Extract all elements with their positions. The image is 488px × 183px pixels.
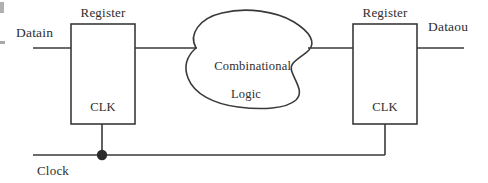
register-2-clk-label: CLK <box>353 100 417 114</box>
clock-label: Clock <box>37 164 69 179</box>
combinational-logic-label-line1: Combinational <box>214 59 291 73</box>
register-1-clk-label: CLK <box>71 100 135 114</box>
datain-label: Datain <box>16 25 53 40</box>
scan-artifact-top <box>0 2 4 13</box>
register-2-label: Register <box>353 6 417 21</box>
scan-artifact-middle <box>0 41 5 44</box>
clock-junction-dot <box>97 150 107 160</box>
diagram-canvas: Datain Dataou Clock Register CLK Registe… <box>0 0 488 183</box>
combinational-logic-label-line2: Logic <box>196 87 296 101</box>
register-1-label: Register <box>71 6 135 21</box>
combinational-logic-label: Combinational Logic <box>196 45 296 129</box>
dataout-label: Dataou <box>428 19 468 34</box>
